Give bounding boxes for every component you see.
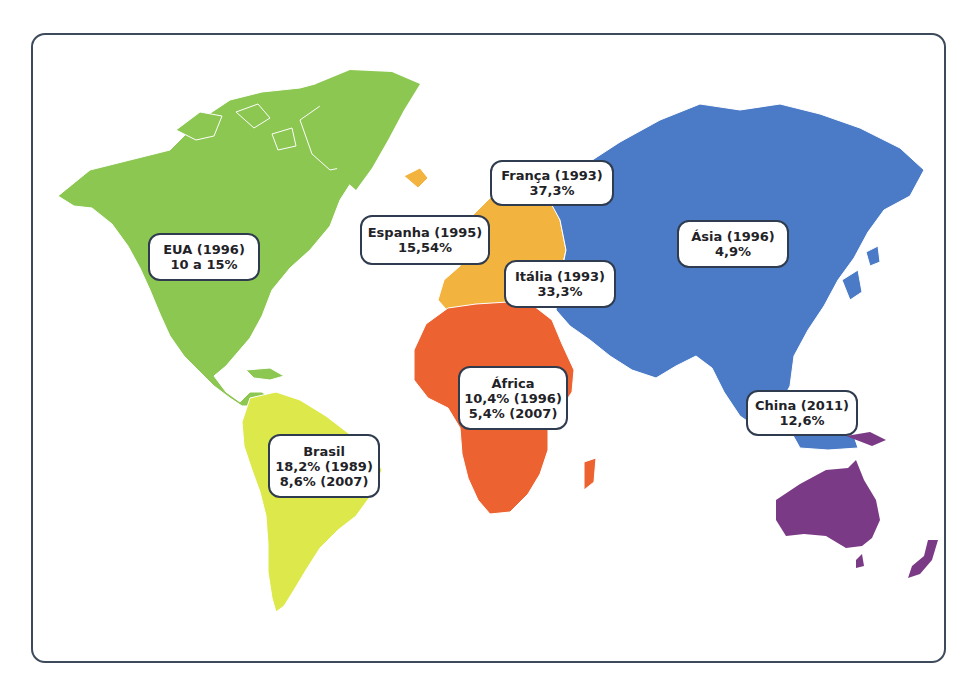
- eua-value: 10 a 15%: [170, 257, 237, 272]
- oceania-region: [776, 432, 938, 578]
- brasil-title: Brasil: [303, 444, 345, 459]
- franca-value: 37,3%: [529, 183, 574, 198]
- china-value: 12,6%: [779, 413, 824, 428]
- label-espanha: Espanha (1995) 15,54%: [360, 215, 490, 265]
- south-america-region: [242, 392, 382, 612]
- brasil-value-1989: 18,2% (1989): [275, 459, 373, 474]
- italia-value: 33,3%: [537, 284, 582, 299]
- eua-title: EUA (1996): [163, 242, 245, 257]
- label-italia: Itália (1993) 33,3%: [504, 260, 616, 308]
- asia-title: Ásia (1996): [691, 229, 775, 244]
- label-brasil: Brasil 18,2% (1989) 8,6% (2007): [268, 434, 380, 498]
- china-title: China (2011): [755, 398, 849, 413]
- label-africa: África 10,4% (1996) 5,4% (2007): [458, 366, 568, 430]
- asia-value: 4,9%: [715, 244, 751, 259]
- world-map: [0, 0, 969, 681]
- franca-title: França (1993): [501, 168, 603, 183]
- africa-value-1996: 10,4% (1996): [464, 391, 562, 406]
- italia-title: Itália (1993): [515, 269, 605, 284]
- africa-value-2007: 5,4% (2007): [469, 406, 558, 421]
- label-franca: França (1993) 37,3%: [490, 160, 614, 206]
- africa-title: África: [491, 376, 534, 391]
- espanha-value: 15,54%: [398, 240, 452, 255]
- label-asia: Ásia (1996) 4,9%: [677, 220, 789, 268]
- espanha-title: Espanha (1995): [368, 225, 483, 240]
- label-eua: EUA (1996) 10 a 15%: [148, 233, 260, 281]
- brasil-value-2007: 8,6% (2007): [280, 474, 369, 489]
- label-china: China (2011) 12,6%: [746, 390, 858, 436]
